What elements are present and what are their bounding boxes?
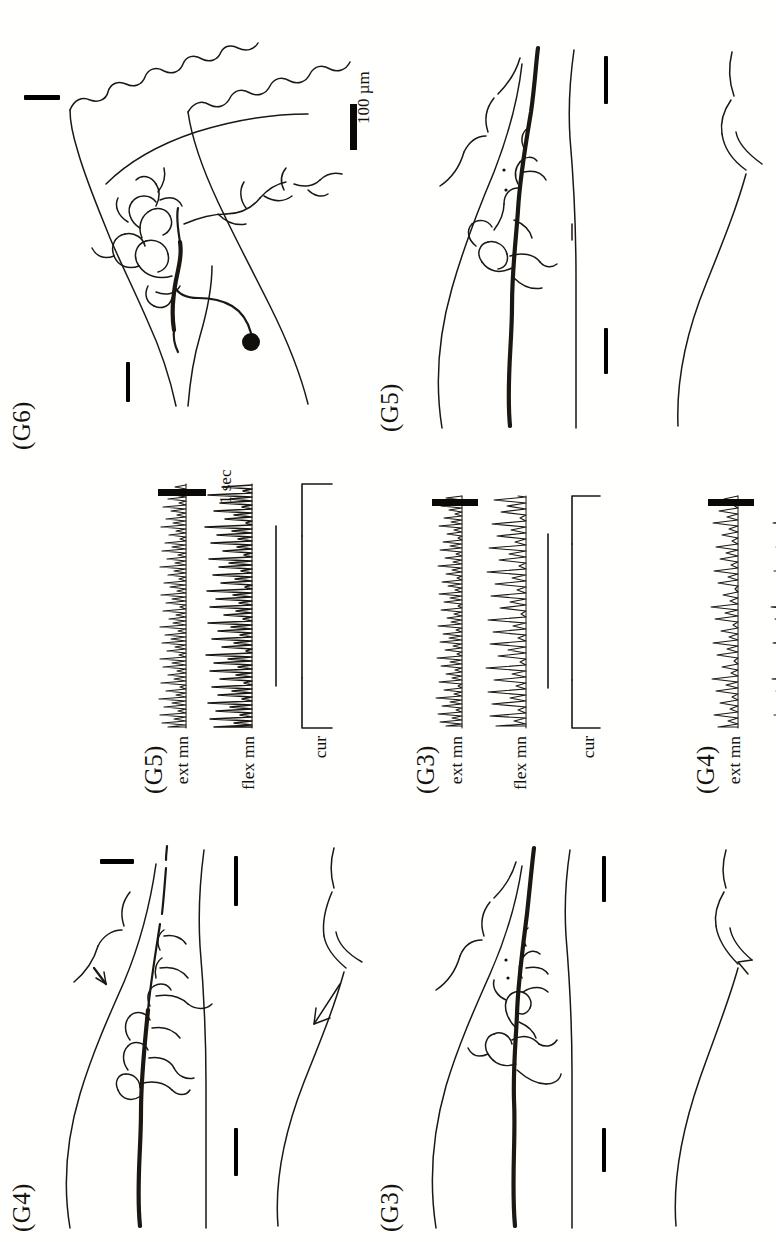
trace-g5-flex-mn <box>205 484 252 728</box>
panel-recording-g4: (G4) ext mn flex mn cur <box>694 494 776 794</box>
trace-g3-ext-mn <box>436 496 462 728</box>
panel-label-g4-recording: (G4) <box>692 745 720 794</box>
panel-label-g4-morphology: (G4) <box>8 1183 36 1232</box>
channel-label-g4-ext-mn: ext mn <box>724 736 745 800</box>
trace-group-g4 <box>700 494 776 730</box>
panel-label-g6-morphology: (G6) <box>8 401 36 450</box>
channel-label-g5-flex-mn: flex mn <box>238 736 259 808</box>
time-scale-bar-g4 <box>708 499 754 506</box>
panel-morphology-g6: (G6) <box>8 40 368 452</box>
panel-morphology-g4: (G4) <box>8 844 368 1236</box>
trace-g5-cur <box>276 484 332 728</box>
trace-group-g3 <box>422 494 622 730</box>
panel-label-g5-recording: (G5) <box>140 745 168 794</box>
neuron-drawing-g3 <box>376 844 770 1236</box>
time-scale-bar-g5 <box>158 489 206 496</box>
neuron-drawing-g5 <box>376 44 770 436</box>
panel-morphology-g5: (G5) <box>376 44 770 436</box>
panel-recording-g3: (G3) ext mn flex mn cur <box>414 494 630 794</box>
channel-label-g3-ext-mn: ext mn <box>446 736 467 800</box>
channel-label-g3-flex-mn: flex mn <box>510 736 531 808</box>
panel-label-g5-morphology: (G5) <box>376 383 404 432</box>
neuron-drawing-g6 <box>8 40 368 452</box>
trace-g5-ext-mn <box>159 484 186 728</box>
channel-label-g5-ext-mn: ext mn <box>172 736 193 800</box>
trace-g3-flex-mn <box>486 496 526 728</box>
trace-g3-cur <box>548 496 600 728</box>
channel-label-g3-cur: cur <box>578 736 599 800</box>
trace-g4-flex-mn <box>771 496 776 728</box>
panel-morphology-g3: (G3) <box>376 844 770 1236</box>
panel-label-g3-recording: (G3) <box>412 745 440 794</box>
panel-recording-g5: (G5) ext mn flex mn cur 1 sec <box>142 484 368 794</box>
time-scale-bar-g3 <box>432 499 478 506</box>
channel-label-g5-cur: cur <box>310 736 331 800</box>
panel-label-g3-morphology: (G3) <box>376 1183 404 1232</box>
soma <box>242 333 260 351</box>
trace-group-g5 <box>148 482 354 730</box>
neuron-drawing-g4 <box>8 844 368 1236</box>
figure-plate: (G3) <box>0 0 776 1242</box>
time-scale-label: 1 sec <box>216 470 236 504</box>
trace-g4-ext-mn <box>711 496 738 728</box>
